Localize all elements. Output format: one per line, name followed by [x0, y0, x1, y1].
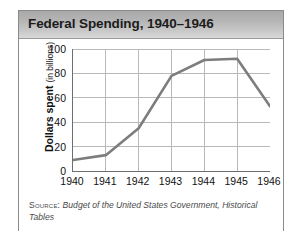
y-tick-label: 60 [40, 93, 66, 104]
plot-area [72, 49, 270, 172]
source-text: Budget of the United States Government, … [29, 200, 258, 222]
x-tick-label: 1941 [88, 175, 122, 187]
x-tick-label: 1943 [154, 175, 188, 187]
x-tick-label: 1946 [252, 175, 286, 187]
source-note: Source: Budget of the United States Gove… [29, 199, 269, 224]
x-tick-label: 1944 [186, 175, 220, 187]
y-tick-label: 80 [40, 68, 66, 79]
page-title: Federal Spending, 1940–1946 [28, 16, 214, 31]
title-band: Federal Spending, 1940–1946 [19, 11, 283, 39]
y-tick-label: 20 [40, 141, 66, 152]
y-tick-label: 40 [40, 117, 66, 128]
source-label: Source: [29, 200, 60, 210]
figure-container: Federal Spending, 1940–1946 Dollars spen… [18, 10, 284, 231]
x-tick-label: 1945 [219, 175, 253, 187]
x-tick-label: 1940 [55, 175, 89, 187]
y-tick-label: 100 [40, 44, 66, 55]
chart-panel: Dollars spent (in billions) 020406080100… [19, 39, 283, 231]
line-chart-svg [73, 49, 270, 171]
x-axis-ticks: 1940194119421943194419451946 [72, 175, 269, 193]
x-tick-label: 1942 [121, 175, 155, 187]
